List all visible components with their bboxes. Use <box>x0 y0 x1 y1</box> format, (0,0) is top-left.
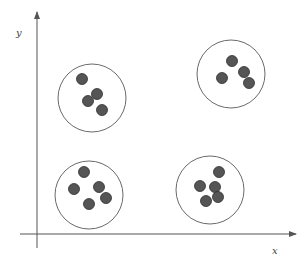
data-point <box>201 196 212 207</box>
cluster-bottom-right <box>176 156 244 224</box>
cluster-top-left <box>58 64 126 132</box>
data-point <box>83 96 94 107</box>
cluster-diagram: x y <box>0 0 308 267</box>
data-point <box>210 182 221 193</box>
data-point <box>213 192 224 203</box>
data-point <box>94 182 105 193</box>
data-point <box>227 56 238 67</box>
data-point <box>239 67 250 78</box>
cluster-top-right <box>197 40 265 108</box>
cluster-boundary <box>197 40 265 108</box>
data-point <box>79 167 90 178</box>
data-point <box>69 184 80 195</box>
cluster-bottom-left <box>55 161 123 229</box>
data-point <box>92 89 103 100</box>
data-point <box>244 78 255 89</box>
x-axis-label: x <box>272 245 278 256</box>
data-point <box>101 193 112 204</box>
data-point <box>97 105 108 116</box>
data-point <box>195 181 206 192</box>
data-point <box>214 167 225 178</box>
data-point <box>217 73 228 84</box>
data-point <box>84 199 95 210</box>
data-point <box>77 74 88 85</box>
clusters <box>55 40 265 229</box>
y-axis-label: y <box>15 27 22 38</box>
